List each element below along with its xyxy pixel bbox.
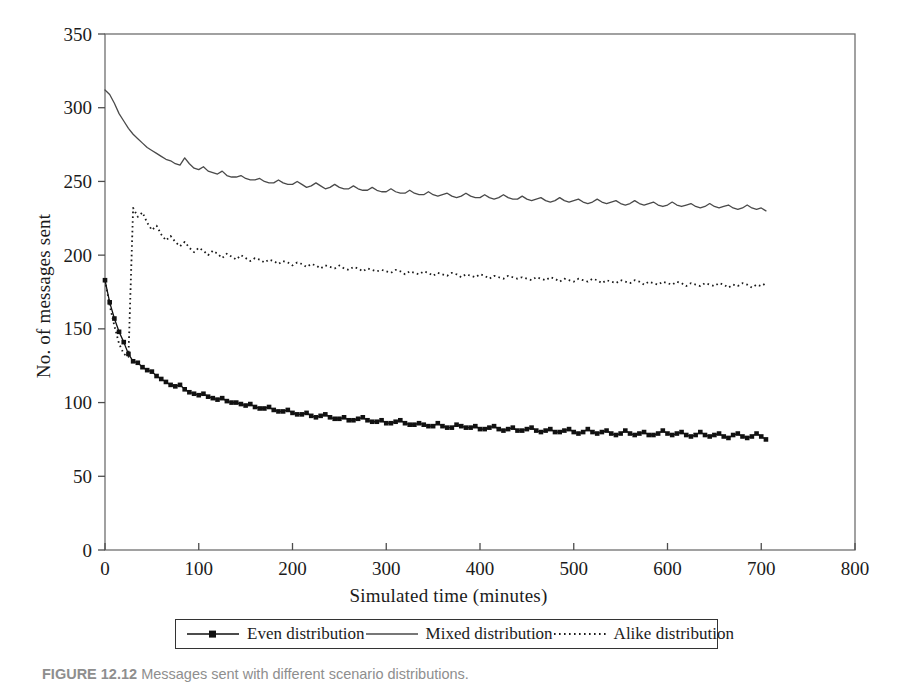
series-marker: [431, 424, 436, 429]
series-marker: [750, 434, 755, 439]
series-marker: [459, 424, 464, 429]
series-marker: [295, 412, 300, 417]
series-marker: [548, 427, 553, 432]
series-marker: [168, 383, 173, 388]
series-marker: [173, 384, 178, 389]
series-marker: [623, 428, 628, 433]
series-marker: [215, 397, 220, 402]
series-marker: [731, 433, 736, 438]
series-marker: [328, 415, 333, 420]
legend-label-even: Even distribution: [247, 624, 365, 644]
series-marker: [300, 412, 305, 417]
series-marker: [478, 427, 483, 432]
series-line-alike: [105, 208, 766, 357]
series-marker: [684, 433, 689, 438]
series-marker: [145, 368, 150, 373]
series-marker: [581, 430, 586, 435]
series-marker: [600, 430, 605, 435]
legend-swatch-alike-dotted: [553, 628, 607, 640]
series-marker: [286, 408, 291, 413]
series-marker: [492, 424, 497, 429]
series-marker: [764, 437, 769, 442]
series-marker: [351, 418, 356, 423]
series-marker: [323, 412, 328, 417]
series-marker: [243, 403, 248, 408]
series-marker: [759, 434, 764, 439]
series-marker: [693, 433, 698, 438]
series-marker: [707, 434, 712, 439]
series-marker: [468, 425, 473, 430]
x-axis-tick-label: 800: [841, 558, 870, 579]
x-axis-tick-label: 500: [560, 558, 589, 579]
series-marker: [211, 396, 216, 401]
series-marker: [637, 431, 642, 436]
series-marker: [642, 430, 647, 435]
series-marker: [267, 405, 272, 410]
series-marker: [740, 434, 745, 439]
legend-item-even: Even distribution: [186, 624, 365, 644]
series-marker: [501, 428, 506, 433]
series-marker: [656, 431, 661, 436]
series-line-mixed: [105, 90, 766, 211]
series-marker: [590, 430, 595, 435]
series-marker: [271, 408, 276, 413]
series-marker: [529, 425, 534, 430]
series-marker: [375, 419, 380, 424]
series-marker: [506, 427, 511, 432]
chart-svg: 0501001502002503003500100200300400500600…: [0, 0, 897, 600]
series-marker: [553, 430, 558, 435]
series-marker: [346, 418, 351, 423]
series-marker: [239, 402, 244, 407]
series-marker: [698, 430, 703, 435]
x-axis-tick-label: 600: [653, 558, 682, 579]
series-marker: [196, 393, 201, 398]
series-marker: [356, 416, 361, 421]
series-marker: [679, 430, 684, 435]
y-axis-tick-label: 350: [64, 24, 93, 45]
series-marker: [379, 418, 384, 423]
series-marker: [557, 430, 562, 435]
series-marker: [220, 396, 225, 401]
y-axis-tick-label: 50: [73, 466, 92, 487]
series-marker: [229, 400, 234, 405]
series-marker: [426, 424, 431, 429]
series-marker: [262, 406, 267, 411]
series-marker: [726, 436, 731, 441]
legend-item-mixed: Mixed distribution: [365, 624, 553, 644]
series-marker: [370, 419, 375, 424]
x-axis-title: Simulated time (minutes): [0, 585, 897, 607]
y-axis-tick-label: 0: [83, 540, 93, 561]
series-marker: [646, 433, 651, 438]
y-axis-tick-label: 300: [64, 97, 93, 118]
series-marker: [651, 433, 656, 438]
series-marker: [342, 415, 347, 420]
series-marker: [304, 411, 309, 416]
chart-legend: Even distribution Mixed distribution Ali…: [175, 619, 718, 649]
x-axis-tick-label: 400: [466, 558, 495, 579]
series-marker: [487, 425, 492, 430]
series-marker: [314, 415, 319, 420]
y-axis-tick-label: 100: [64, 392, 93, 413]
y-axis-tick-label: 250: [64, 171, 93, 192]
series-marker: [717, 431, 722, 436]
series-marker: [496, 427, 501, 432]
series-marker: [332, 416, 337, 421]
series-marker: [417, 421, 422, 426]
y-axis-tick-label: 200: [64, 245, 93, 266]
series-marker: [290, 411, 295, 416]
series-marker: [436, 421, 441, 426]
x-axis-tick-label: 0: [100, 558, 110, 579]
series-marker: [712, 433, 717, 438]
series-marker: [520, 428, 525, 433]
plot-frame: [105, 34, 855, 550]
x-axis-tick-label: 700: [747, 558, 776, 579]
series-marker: [276, 409, 281, 414]
series-marker: [154, 374, 159, 379]
figure-caption: FIGURE 12.12 Messages sent with differen…: [42, 666, 862, 682]
series-marker: [539, 430, 544, 435]
figure-container: 0501001502002503003500100200300400500600…: [0, 0, 897, 686]
series-marker: [614, 433, 619, 438]
legend-swatch-even-line-marker: [186, 628, 240, 640]
series-marker: [703, 433, 708, 438]
series-marker: [150, 369, 155, 374]
